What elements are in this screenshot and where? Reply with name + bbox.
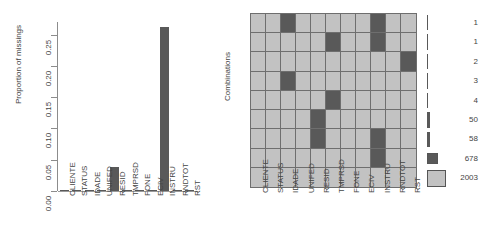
pattern-cell: [341, 52, 356, 71]
pattern-cell: [266, 14, 281, 33]
pattern-cell: [281, 72, 296, 91]
y-tick-label: 0.10: [44, 128, 53, 154]
count-label: 2: [448, 57, 478, 66]
pattern-cell: [371, 52, 386, 71]
pattern-cell: [356, 149, 371, 168]
y-tick-label: 0.15: [44, 97, 53, 123]
pattern-cell: [356, 110, 371, 129]
pattern-cell: [341, 72, 356, 91]
pattern-cell: [386, 14, 401, 33]
x-axis-label: STATUS: [80, 166, 89, 196]
x-axis-label: RNDTOT: [181, 163, 190, 196]
pattern-cell: [296, 14, 311, 33]
pattern-cell: [371, 72, 386, 91]
pattern-cell: [401, 72, 416, 91]
count-bar: [427, 112, 430, 127]
matrix-y-axis-title: Combinations: [223, 32, 232, 122]
pattern-cell: [326, 110, 341, 129]
matrix-x-axis-label: RST: [413, 177, 422, 193]
pattern-cell: [296, 110, 311, 129]
pattern-cell: [296, 33, 311, 52]
count-label: 3: [448, 76, 478, 85]
y-tick-label: 0.20: [44, 65, 53, 91]
count-label: 4: [448, 96, 478, 105]
count-bar: [427, 132, 430, 147]
pattern-cell: [356, 91, 371, 110]
pattern-cell: [386, 33, 401, 52]
count-bar: [427, 15, 428, 30]
pattern-cell: [341, 129, 356, 148]
matrix-x-axis-label: CLIENTE: [261, 159, 270, 193]
count-label: 2003: [448, 173, 478, 182]
y-tick-label: 0.00: [44, 191, 53, 217]
pattern-cell: [266, 72, 281, 91]
y-tick-label: 0.05: [44, 159, 53, 185]
pattern-cell: [371, 129, 386, 148]
pattern-cell: [371, 91, 386, 110]
pattern-cell: [371, 33, 386, 52]
missing-pattern-matrix: Combinations CLIENTESTATUSIDADEUNIFEDRES…: [205, 0, 480, 251]
matrix-x-axis-label: TMPRSD: [337, 159, 346, 193]
pattern-cell: [326, 33, 341, 52]
x-axis-label: RESID: [118, 172, 127, 196]
matrix-x-axis-label: IDADE: [291, 169, 300, 193]
pattern-cell: [266, 91, 281, 110]
pattern-cell: [266, 129, 281, 148]
x-axis-label: CLIENTE: [68, 162, 77, 196]
pattern-cell: [371, 110, 386, 129]
pattern-cell: [356, 52, 371, 71]
count-bar: [427, 170, 446, 187]
matrix-x-axis-label: RNDTOT: [398, 160, 407, 193]
pattern-cell: [386, 91, 401, 110]
pattern-cell: [341, 14, 356, 33]
pattern-cell: [251, 91, 266, 110]
pattern-cell: [251, 72, 266, 91]
x-axis-label: UNIFED: [105, 166, 114, 196]
count-bar: [427, 54, 428, 69]
pattern-cell: [251, 14, 266, 33]
pattern-cell: [281, 14, 296, 33]
count-label: 50: [448, 115, 478, 124]
pattern-cell: [356, 14, 371, 33]
pattern-cell: [401, 110, 416, 129]
pattern-cell: [401, 129, 416, 148]
count-bar: [427, 153, 438, 164]
pattern-cell: [296, 72, 311, 91]
pattern-cell: [356, 72, 371, 91]
pattern-cell: [386, 129, 401, 148]
matrix-x-axis-label: INSTRU: [383, 163, 392, 193]
pattern-cell: [386, 72, 401, 91]
pattern-cell: [401, 91, 416, 110]
x-axis-label: INSTRU: [168, 166, 177, 196]
pattern-cell: [311, 110, 326, 129]
pattern-cell: [326, 14, 341, 33]
x-axis-label: RST: [193, 180, 202, 196]
x-axis-label: TMPRSD: [131, 162, 140, 196]
count-bar: [427, 93, 428, 108]
pattern-cell: [386, 52, 401, 71]
pattern-cell: [311, 72, 326, 91]
pattern-cell: [401, 33, 416, 52]
pattern-cell: [341, 33, 356, 52]
matrix-x-axis-label: UNIFED: [307, 163, 316, 193]
pattern-cell: [266, 52, 281, 71]
pattern-cell: [401, 52, 416, 71]
pattern-cell: [281, 129, 296, 148]
pattern-cell: [356, 129, 371, 148]
pattern-cell: [356, 33, 371, 52]
pattern-cell: [281, 52, 296, 71]
pattern-cell: [311, 91, 326, 110]
pattern-cell: [311, 52, 326, 71]
count-label: 58: [448, 134, 478, 143]
proportion-of-missings-barchart: Proportion of missings 0.000.050.100.150…: [0, 0, 205, 251]
pattern-cell: [266, 33, 281, 52]
pattern-cell: [311, 14, 326, 33]
matrix-x-axis-label: RESID: [322, 169, 331, 193]
pattern-cell: [311, 33, 326, 52]
pattern-cell: [266, 110, 281, 129]
matrix-x-axis-label: ECIV: [367, 174, 376, 193]
pattern-cell: [326, 91, 341, 110]
pattern-cell: [251, 33, 266, 52]
pattern-cell: [311, 129, 326, 148]
x-axis-label: FONE: [143, 174, 152, 196]
